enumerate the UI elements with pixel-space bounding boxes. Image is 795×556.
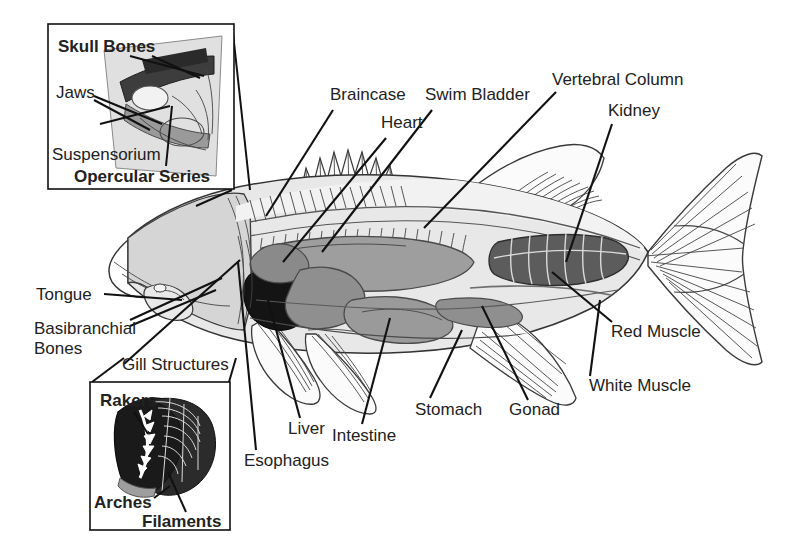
label-kidney: Kidney	[608, 101, 660, 120]
label-gonad: Gonad	[509, 400, 560, 419]
label-basibranchial-1: Basibranchial	[34, 319, 136, 338]
label-intestine: Intestine	[332, 426, 396, 445]
inset-label-opercular-series: Opercular Series	[74, 167, 210, 186]
label-tongue: Tongue	[36, 285, 92, 304]
inset-label-skull-bones: Skull Bones	[58, 37, 155, 56]
inset-label-rakers: Rakers	[100, 391, 157, 410]
skull-bones-inset[interactable]: Skull Bones Jaws Suspensorium Opercular …	[48, 24, 250, 206]
label-esophagus: Esophagus	[244, 451, 329, 470]
label-liver: Liver	[288, 419, 325, 438]
label-vertebral-column: Vertebral Column	[552, 70, 683, 89]
fish-anatomy-figure: Braincase Heart Swim Bladder Vertebral C…	[0, 0, 795, 556]
head-region	[109, 193, 252, 330]
inset-label-arches: Arches	[94, 493, 152, 512]
label-basibranchial-2: Bones	[34, 339, 82, 358]
gill-structures-inset[interactable]: Rakers Arches Filaments	[90, 358, 236, 531]
label-gill-structures: Gill Structures	[122, 355, 229, 374]
label-heart: Heart	[381, 113, 423, 132]
label-braincase: Braincase	[330, 85, 406, 104]
label-stomach: Stomach	[415, 400, 482, 419]
label-swim-bladder: Swim Bladder	[425, 85, 530, 104]
label-red-muscle: Red Muscle	[611, 322, 701, 341]
leader-white-muscle	[590, 300, 600, 376]
inset-label-jaws: Jaws	[56, 83, 95, 102]
label-white-muscle: White Muscle	[589, 376, 691, 395]
inset-label-filaments: Filaments	[142, 512, 221, 531]
inset-label-suspensorium: Suspensorium	[52, 145, 161, 164]
